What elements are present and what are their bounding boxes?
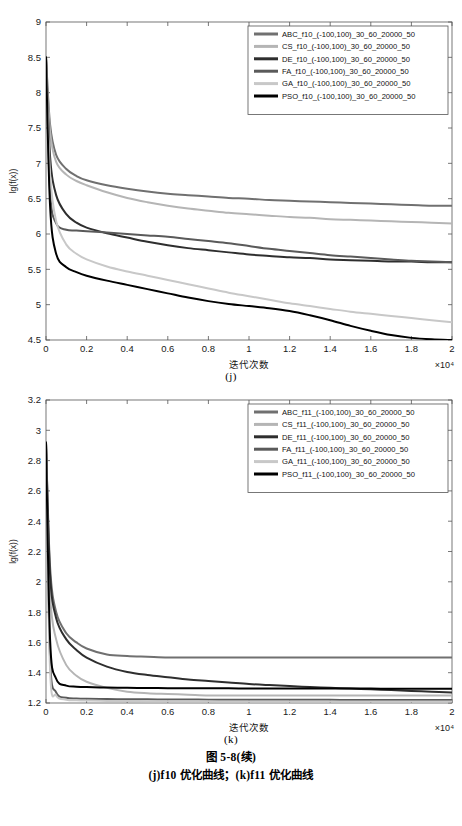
y-tick-label: 3.2 [28,394,41,405]
x-tick-label: 1.6 [364,343,377,354]
x-tick-label: 2 [449,706,454,717]
x-tick-label: 1.4 [324,343,337,354]
y-tick-label: 2.2 [28,546,41,557]
chart-j-svg: 00.20.40.60.811.21.41.61.824.555.566.577… [0,0,462,370]
x-tick-label: 2 [449,343,454,354]
x-tick-label: 0.2 [80,343,93,354]
y-tick-label: 7.5 [28,122,41,133]
legend-label: FA_f10_(-100,100)_30_60_20000_50 [282,67,409,76]
chart-k-svg: 00.20.40.60.811.21.41.61.821.21.41.61.82… [0,388,462,733]
y-tick-label: 6 [36,228,41,239]
x-tick-label: 0.8 [202,343,215,354]
figure-caption-main: 图 5-8(续) [0,748,462,764]
legend-label: DE_f10_(-100,100)_30_60_20000_50 [282,55,410,64]
y-tick-label: 8.5 [28,52,41,63]
x-tick-label: 0.6 [161,343,174,354]
y-axis-label: lg(f(x)) [8,539,18,564]
y-tick-label: 7 [36,158,41,169]
legend-label: GA_f10_(-100,100)_30_60_20000_50 [282,79,410,88]
y-tick-label: 5 [36,299,41,310]
panel-j-plot: 00.20.40.60.811.21.41.61.824.555.566.577… [0,0,462,370]
y-tick-label: 2.6 [28,485,41,496]
figure-caption-sub: (j)f10 优化曲线；(k)f11 优化曲线 [0,766,462,782]
panel-j-caption: (j) [0,370,462,382]
x-tick-label: 0.4 [121,706,134,717]
y-tick-label: 9 [36,16,41,27]
panel-k: 00.20.40.60.811.21.41.61.821.21.41.61.82… [0,388,462,745]
x-tick-label: 1.8 [405,706,418,717]
legend-label: GA_f11_(-100,100)_30_60_20000_50 [282,457,410,466]
legend-label: PSO_f11_(-100,100)_30_60_20000_50 [282,470,415,479]
y-tick-label: 2.4 [28,516,41,527]
figure-page: 00.20.40.60.811.21.41.61.824.555.566.577… [0,0,462,826]
legend-label: FA_f11_(-100,100)_30_60_20000_50 [282,445,408,454]
y-tick-label: 1.6 [28,637,41,648]
x-tick-label: 0.8 [202,706,215,717]
x-tick-label: 0.2 [80,706,93,717]
legend-label: CS_f11_(-100,100)_30_60_20000_50 [282,420,409,429]
x-tick-label: 1.4 [324,706,337,717]
y-tick-label: 1.8 [28,607,41,618]
x-tick-label: 1 [246,706,251,717]
legend-label: PSO_f10_(-100,100)_30_60_20000_50 [282,92,415,101]
legend-label: DE_f11_(-100,100)_30_60_20000_50 [282,433,409,442]
y-tick-label: 6.5 [28,193,41,204]
x-axis-label: 迭代次数 [229,722,269,733]
x-tick-label: 1.8 [405,343,418,354]
x-tick-label: 0.4 [121,343,134,354]
y-tick-label: 1.4 [28,667,41,678]
x-axis-multiplier: ×10⁴ [435,360,454,370]
x-tick-label: 1.2 [283,706,296,717]
legend-label: CS_f10_(-100,100)_30_60_20000_50 [282,42,410,51]
x-tick-label: 1 [246,343,251,354]
y-tick-label: 2 [36,576,41,587]
y-tick-label: 1.2 [28,697,41,708]
x-tick-label: 1.2 [283,343,296,354]
y-axis-label: lg(f(x)) [8,169,18,194]
x-tick-label: 0 [43,706,48,717]
legend-label: ABC_f11_(-100,100)_30_60_20000_50 [282,408,414,417]
panel-k-plot: 00.20.40.60.811.21.41.61.821.21.41.61.82… [0,388,462,733]
y-tick-label: 8 [36,87,41,98]
legend-label: ABC_f10_(-100,100)_30_60_20000_50 [282,30,415,39]
x-tick-label: 0 [43,343,48,354]
x-axis-label: 迭代次数 [229,359,269,370]
panel-k-caption: (k) [0,733,462,745]
y-tick-label: 2.8 [28,455,41,466]
x-tick-label: 0.6 [161,706,174,717]
y-tick-label: 5.5 [28,264,41,275]
y-tick-label: 4.5 [28,334,41,345]
x-axis-multiplier: ×10⁴ [435,723,454,733]
y-tick-label: 3 [36,425,41,436]
x-tick-label: 1.6 [364,706,377,717]
panel-j: 00.20.40.60.811.21.41.61.824.555.566.577… [0,0,462,382]
